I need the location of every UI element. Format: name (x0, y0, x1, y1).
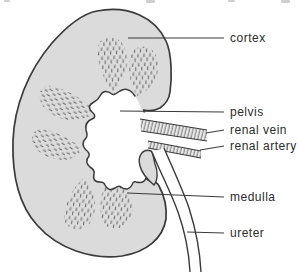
label-renal-vein: renal vein (230, 122, 287, 138)
kidney-diagram: cortex pelvis renal vein renal artery me… (0, 0, 298, 273)
label-ureter: ureter (230, 225, 264, 241)
label-cortex: cortex (230, 30, 266, 46)
label-pelvis: pelvis (230, 104, 264, 120)
label-medulla: medulla (230, 189, 276, 205)
label-renal-artery: renal artery (230, 138, 297, 154)
